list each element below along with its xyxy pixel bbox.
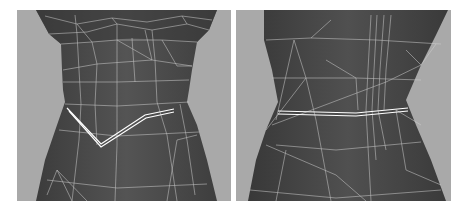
mesh-panel-back: [236, 10, 451, 201]
torso-front-render: [17, 10, 231, 201]
torso-back-render: [236, 10, 451, 201]
mesh-panel-front: [17, 10, 231, 201]
torso-silhouette: [248, 10, 448, 201]
